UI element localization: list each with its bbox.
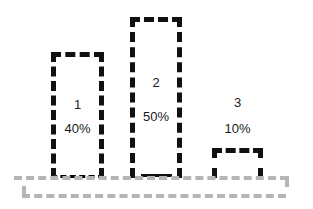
bar-1-value-label: 40% (51, 122, 104, 135)
bar-2-category-label: 2 (130, 76, 182, 89)
axis-line-upper-right-tick (285, 176, 289, 187)
bar-chart-figure: 1 40% 2 50% 3 10% (0, 0, 313, 209)
bar-3-outline (212, 148, 263, 178)
bar-3-category-label: 3 (212, 96, 263, 109)
axis-line-lower (22, 194, 286, 198)
axis-line-upper (14, 176, 288, 180)
axis-line-lower-left-tick (22, 186, 26, 198)
bar-1-category-label: 1 (51, 98, 104, 111)
bar-2-outline (130, 17, 182, 178)
bar-2-value-label: 50% (130, 110, 182, 123)
bar-3-value-label: 10% (212, 122, 263, 135)
bar-1-outline (51, 52, 104, 178)
